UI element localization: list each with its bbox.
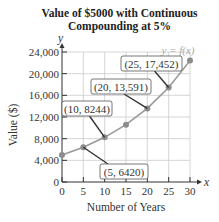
- x-tick-label: 10: [99, 185, 111, 197]
- annotation-label: (20, 13,591): [94, 81, 148, 94]
- y-tick-label: 24,000: [29, 46, 60, 58]
- y-tick-label: 12,000: [29, 111, 60, 123]
- y-tick-label: 4,000: [34, 154, 59, 166]
- x-tick-label: 5: [81, 185, 87, 197]
- annotation-leader: [90, 116, 105, 137]
- y-axis-letter: y: [57, 32, 64, 45]
- y-tick-label: 20,000: [29, 68, 60, 80]
- data-point: [59, 152, 65, 158]
- x-axis-letter: x: [203, 176, 210, 188]
- curve-label: y = f(x): [160, 44, 194, 57]
- x-axis-arrow-icon: [197, 180, 202, 185]
- annotation-leader: [124, 94, 147, 108]
- y-axis-title: Value ($): [7, 104, 20, 147]
- data-point: [123, 122, 129, 128]
- data-point: [187, 58, 193, 64]
- y-tick-label: 0: [54, 176, 60, 188]
- x-tick-label: 0: [59, 185, 65, 197]
- x-tick-label: 20: [142, 185, 154, 197]
- y-tick-label: 8,000: [34, 133, 59, 145]
- x-tick-label: 25: [163, 185, 175, 197]
- y-tick-label: 16,000: [29, 89, 60, 101]
- x-tick-label: 30: [185, 185, 197, 197]
- x-tick-label: 15: [121, 185, 133, 197]
- annotation-label: (5, 6420): [104, 166, 145, 179]
- line-chart: 05101520253004,0008,00012,00016,00020,00…: [0, 0, 219, 222]
- annotation-label: (25, 17,452): [124, 58, 178, 71]
- annotation-label: (10, 8244): [64, 103, 110, 116]
- x-axis-title: Number of Years: [87, 201, 166, 213]
